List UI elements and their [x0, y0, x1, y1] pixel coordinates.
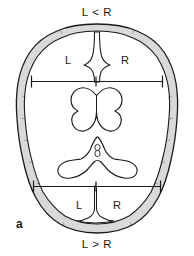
panel-label: a [16, 217, 23, 231]
frontal-right-label: R [121, 54, 129, 66]
figure-container: L < R L > R L R L R a [0, 0, 194, 256]
top-comparison-label: L < R [82, 6, 112, 18]
paired-oval-vessels [95, 144, 100, 156]
axial-brain-diagram: L < R L > R L R L R a [0, 0, 194, 256]
occipital-right-label: R [113, 199, 121, 211]
frontal-left-label: L [65, 54, 71, 66]
occipital-left-label: L [76, 199, 82, 211]
bottom-comparison-label: L > R [82, 238, 112, 250]
